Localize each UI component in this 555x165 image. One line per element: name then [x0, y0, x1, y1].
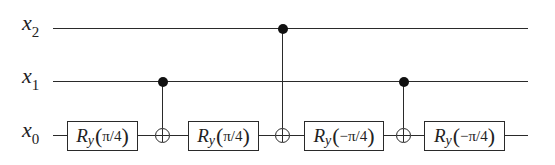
gate-ry-3: Ry(−π/4) — [304, 121, 384, 151]
gate-ry-4: Ry(−π/4) — [424, 121, 505, 151]
gate-angle: −π/4 — [460, 128, 488, 145]
cnot-2-connector — [282, 29, 283, 136]
gate-name: R — [76, 125, 88, 147]
gate-angle: π/4 — [223, 128, 242, 145]
qubit-index: 0 — [32, 131, 40, 147]
gate-name: R — [434, 125, 446, 147]
cnot-1-control-dot-icon — [158, 77, 168, 87]
qubit-label-x2: x2 — [22, 12, 39, 38]
wire-x2 — [53, 28, 528, 29]
qubit-symbol: x — [22, 10, 32, 35]
gate-axis: y — [446, 133, 452, 149]
gate-axis: y — [325, 133, 331, 149]
cnot-1-target-oplus-icon — [155, 128, 170, 143]
qubit-label-x1: x1 — [22, 65, 39, 91]
qubit-index: 1 — [32, 77, 40, 93]
wire-x1 — [53, 81, 528, 82]
cnot-3-target-oplus-icon — [396, 128, 411, 143]
gate-ry-2: Ry(π/4) — [188, 121, 259, 151]
gate-ry-1: Ry(π/4) — [67, 121, 138, 151]
cnot-2-target-oplus-icon — [275, 128, 290, 143]
cnot-2-control-dot-icon — [278, 24, 288, 34]
quantum-circuit: x2 x1 x0 Ry(π/4) Ry(π/4) Ry(−π/4) Ry(−π/… — [0, 0, 555, 165]
gate-name: R — [313, 125, 325, 147]
gate-angle: π/4 — [102, 128, 121, 145]
gate-name: R — [197, 125, 209, 147]
qubit-index: 2 — [32, 24, 40, 40]
cnot-3-control-dot-icon — [399, 77, 409, 87]
gate-angle: −π/4 — [340, 128, 368, 145]
qubit-label-x0: x0 — [22, 119, 39, 145]
qubit-symbol: x — [22, 117, 32, 142]
gate-axis: y — [88, 133, 94, 149]
gate-axis: y — [209, 133, 215, 149]
qubit-symbol: x — [22, 63, 32, 88]
